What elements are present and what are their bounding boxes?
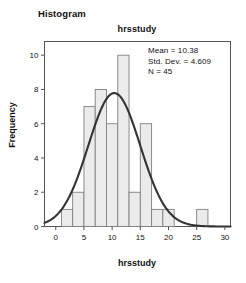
y-tick-label: 4 [34, 154, 39, 163]
bars-group [61, 55, 208, 226]
statistics-annotation: Mean = 10.38 Std. Dev. = 4.609 N = 45 [148, 46, 211, 78]
x-tick-label: 25 [192, 233, 201, 242]
y-tick-label: 10 [30, 51, 39, 60]
histogram-bar [152, 209, 163, 226]
x-tick-label: 30 [220, 233, 229, 242]
x-tick-label: 15 [136, 233, 145, 242]
x-tick-label: 5 [82, 233, 87, 242]
n-text: N = 45 [148, 67, 211, 78]
y-tick-label: 0 [34, 223, 39, 232]
histogram-bar [73, 192, 84, 226]
x-tick-label: 20 [164, 233, 173, 242]
histogram-figure: Histogram hrsstudy Frequency hrsstudy 02… [0, 0, 246, 283]
x-axis-ticks: 051015202530 [54, 227, 230, 242]
y-tick-label: 8 [34, 85, 39, 94]
y-tick-label: 2 [34, 188, 39, 197]
y-tick-label: 6 [34, 120, 39, 129]
x-tick-label: 0 [54, 233, 59, 242]
histogram-bar [61, 209, 72, 226]
mean-text: Mean = 10.38 [148, 46, 211, 57]
histogram-bar [118, 55, 129, 226]
plot-area: 0246810051015202530 [0, 0, 246, 283]
histogram-bar [107, 124, 118, 227]
std-dev-text: Std. Dev. = 4.609 [148, 57, 211, 68]
histogram-bar [129, 192, 140, 226]
histogram-bar [84, 107, 95, 227]
histogram-bar [197, 209, 208, 226]
y-axis-ticks: 0246810 [30, 51, 45, 231]
x-tick-label: 10 [108, 233, 117, 242]
